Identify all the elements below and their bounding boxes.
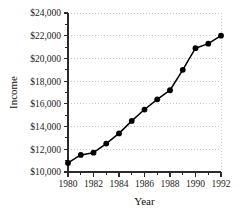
data-point [91,150,97,156]
data-series-income [65,33,224,166]
data-point [193,45,199,51]
y-tick-label: $14,000 [30,122,61,132]
y-axis-title: Income [7,76,19,109]
income-by-year-chart: $10,000$12,000$14,000$16,000$18,000$20,0… [0,0,241,216]
axis-lines [68,13,221,172]
data-point [78,152,84,158]
y-tick-label: $22,000 [30,31,61,41]
axes [68,13,221,172]
x-tick-label: 1980 [59,179,78,189]
data-point [154,96,160,102]
data-point [129,118,135,124]
x-tick-label: 1990 [186,179,205,189]
y-axis-ticks: $10,000$12,000$14,000$16,000$18,000$20,0… [30,8,68,177]
y-tick-label: $20,000 [30,54,61,64]
x-tick-label: 1982 [84,179,103,189]
data-point [116,130,122,136]
y-tick-label: $18,000 [30,77,61,87]
data-point [142,107,148,113]
y-tick-label: $10,000 [30,167,61,177]
gridlines [68,13,221,172]
x-tick-label: 1992 [212,179,231,189]
y-tick-label: $16,000 [30,99,61,109]
x-axis-ticks: 1980198219841986198819901992 [59,172,231,189]
data-point [205,41,211,47]
data-point [65,160,71,166]
series-line [68,36,221,163]
y-tick-label: $24,000 [30,8,61,18]
x-tick-label: 1986 [135,179,154,189]
data-point [218,33,224,39]
x-axis-title: Year [134,195,155,207]
data-point [180,67,186,73]
x-tick-label: 1988 [161,179,180,189]
chart-canvas: $10,000$12,000$14,000$16,000$18,000$20,0… [0,0,241,216]
data-point [167,87,173,93]
axis-titles: IncomeYear [7,76,155,207]
data-point [103,141,109,147]
x-tick-label: 1984 [110,179,129,189]
y-tick-label: $12,000 [30,145,61,155]
